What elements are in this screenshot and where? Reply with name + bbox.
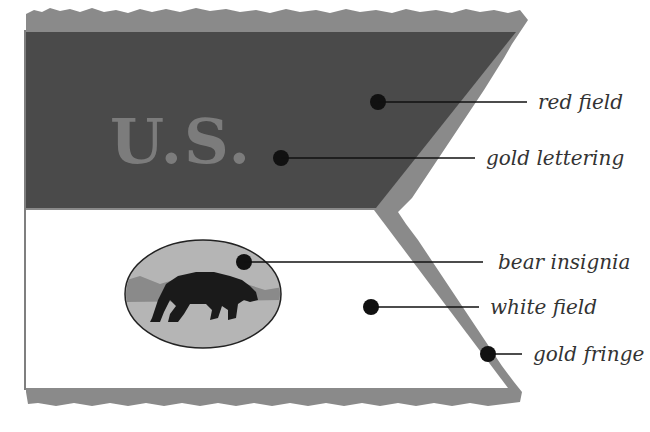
guidon-flag-diagram: U.S. — [0, 0, 650, 432]
callout-gold-fringe — [480, 346, 522, 362]
label-gold-lettering: gold lettering — [486, 148, 624, 168]
label-bear-insignia: bear insignia — [498, 252, 630, 272]
label-red-field: red field — [538, 92, 623, 112]
red-field — [26, 32, 516, 208]
label-white-field: white field — [490, 297, 597, 317]
label-gold-fringe: gold fringe — [533, 344, 644, 364]
gold-lettering: U.S. — [110, 105, 252, 178]
